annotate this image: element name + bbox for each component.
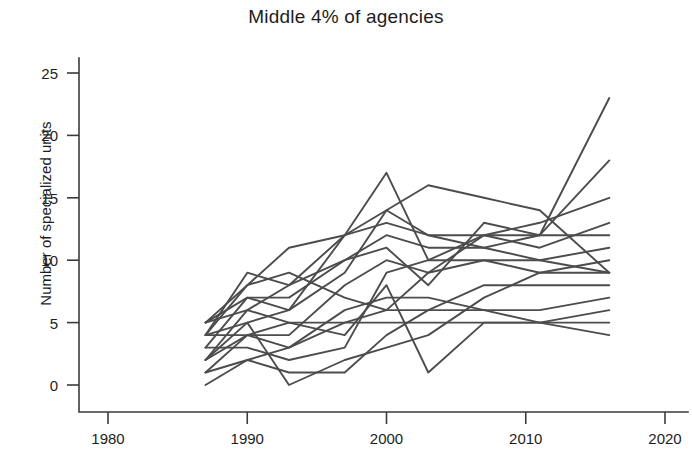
series-line xyxy=(206,185,610,322)
y-tick-label: 15 xyxy=(41,190,58,207)
y-tick-label: 10 xyxy=(41,252,58,269)
y-tick-label: 25 xyxy=(41,65,58,82)
y-tick-label: 20 xyxy=(41,127,58,144)
x-tick-label: 2000 xyxy=(370,430,403,447)
x-tick-label: 2010 xyxy=(509,430,542,447)
plot-area: 19801990200020102020 0510152025 xyxy=(0,0,692,457)
x-tick-label: 2020 xyxy=(648,430,681,447)
x-tick-label: 1980 xyxy=(91,430,124,447)
y-axis-ticks: 0510152025 xyxy=(41,65,79,394)
x-tick-label: 1990 xyxy=(231,430,264,447)
chart-figure: Middle 4% of agencies Number of speciali… xyxy=(0,0,692,457)
y-tick-label: 0 xyxy=(50,377,58,394)
series-group xyxy=(206,98,610,385)
x-axis-ticks: 19801990200020102020 xyxy=(91,412,681,447)
y-tick-label: 5 xyxy=(50,315,58,332)
